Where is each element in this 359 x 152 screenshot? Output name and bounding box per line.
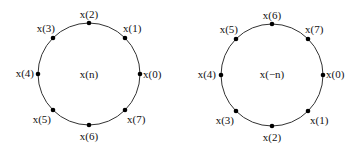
point-label: x(6) (263, 9, 282, 22)
point-dot (306, 37, 311, 42)
point-label: x(3) (216, 114, 235, 127)
point-dot (306, 109, 311, 114)
circle-diagram-x-n: x(n) x(0) x(1) x(2) x(3) x(4) x(5) x(6) … (16, 8, 162, 143)
point-dot (87, 123, 92, 128)
point-label: x(1) (310, 114, 329, 127)
circular-sequence-diagrams: x(n) x(0) x(1) x(2) x(3) x(4) x(5) x(6) … (0, 0, 359, 152)
point-dot (51, 108, 56, 113)
point-dot (138, 72, 143, 77)
point-label: x(4) (16, 67, 35, 80)
point-dot (36, 72, 41, 77)
point-dot (270, 124, 275, 129)
point-label: x(1) (123, 22, 142, 35)
point-label: x(5) (33, 113, 52, 126)
point-label: x(7) (127, 113, 146, 126)
center-label: x(n) (80, 68, 99, 81)
point-label: x(2) (80, 8, 99, 21)
point-dot (270, 22, 275, 27)
point-label: x(6) (80, 130, 99, 143)
center-label: x(−n) (260, 68, 285, 81)
point-dot (123, 36, 128, 41)
point-label: x(7) (305, 23, 324, 36)
point-label: x(0) (326, 68, 345, 81)
point-dot (234, 109, 239, 114)
point-label: x(0) (143, 68, 162, 81)
point-dot (321, 73, 326, 78)
point-dot (51, 36, 56, 41)
point-dot (219, 73, 224, 78)
point-dot (234, 37, 239, 42)
point-dot (87, 21, 92, 26)
point-dot (123, 108, 128, 113)
circle-diagram-x-minus-n: x(−n) x(0) x(7) x(6) x(5) x(4) x(3) x(2)… (198, 9, 345, 144)
point-label: x(2) (263, 131, 282, 144)
point-label: x(4) (198, 68, 217, 81)
point-label: x(5) (220, 23, 239, 36)
point-label: x(3) (37, 22, 56, 35)
